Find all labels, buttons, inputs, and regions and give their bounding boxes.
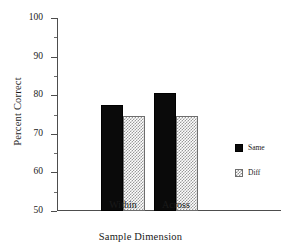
y-tick-major: 60 [51, 172, 57, 173]
x-category-label-across: Across [162, 199, 190, 210]
y-tick-label: 100 [29, 13, 43, 23]
y-tick-major: 50 [51, 211, 57, 212]
legend-label-diff: Diff [248, 169, 260, 177]
legend-item-same: Same [235, 143, 265, 152]
y-tick-minor [54, 37, 58, 38]
legend-item-diff: Diff [235, 168, 265, 177]
y-tick-label: 60 [34, 168, 44, 178]
y-tick-label: 90 [34, 52, 44, 62]
y-tick-label: 50 [34, 206, 44, 216]
bar-across-diff [176, 116, 198, 211]
y-axis-line [57, 18, 58, 211]
legend-swatch-diff-icon [235, 169, 243, 177]
y-tick-minor [54, 192, 58, 193]
y-tick-label: 80 [34, 90, 44, 100]
y-axis-title: Percent Correct [12, 52, 23, 172]
x-axis-title: Sample Dimension [0, 231, 281, 242]
y-tick-major: 100 [51, 18, 57, 19]
legend-label-same: Same [248, 144, 265, 152]
y-tick-minor [54, 153, 58, 154]
bar-within-same [101, 105, 123, 211]
y-tick-minor [54, 115, 58, 116]
y-tick-major: 90 [51, 57, 57, 58]
y-tick-minor [54, 76, 58, 77]
y-tick-major: 70 [51, 134, 57, 135]
y-tick-label: 70 [34, 129, 44, 139]
legend-swatch-same-icon [235, 144, 243, 152]
y-tick-major: 80 [51, 95, 57, 96]
x-category-label-within: Within [109, 199, 136, 210]
plot-area: 5060708090100 [57, 18, 224, 211]
bar-chart: Percent Correct 5060708090100 WithinAcro… [0, 0, 281, 251]
bar-within-diff [123, 116, 145, 211]
bar-across-same [154, 93, 176, 211]
chart-legend: Same Diff [235, 143, 265, 193]
